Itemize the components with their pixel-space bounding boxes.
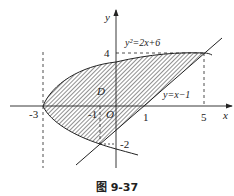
y-tick-4: 4 bbox=[104, 48, 110, 59]
region-label: D bbox=[97, 86, 105, 97]
x-tick-5: 5 bbox=[201, 112, 207, 123]
y-tick-minus2: -2 bbox=[120, 139, 129, 150]
y-axis-label: y bbox=[105, 12, 110, 23]
diagram-canvas bbox=[0, 0, 234, 196]
figure-caption: 图 9-37 bbox=[0, 178, 234, 194]
x-tick-minus3: -3 bbox=[29, 109, 38, 120]
line-label: y=x−1 bbox=[163, 90, 190, 100]
origin-label: O bbox=[106, 109, 114, 120]
x-tick-minus1: -1 bbox=[88, 109, 97, 120]
x-tick-1: 1 bbox=[143, 112, 149, 123]
parabola-label: y²=2x+6 bbox=[125, 38, 160, 48]
x-axis-label: x bbox=[223, 110, 228, 121]
